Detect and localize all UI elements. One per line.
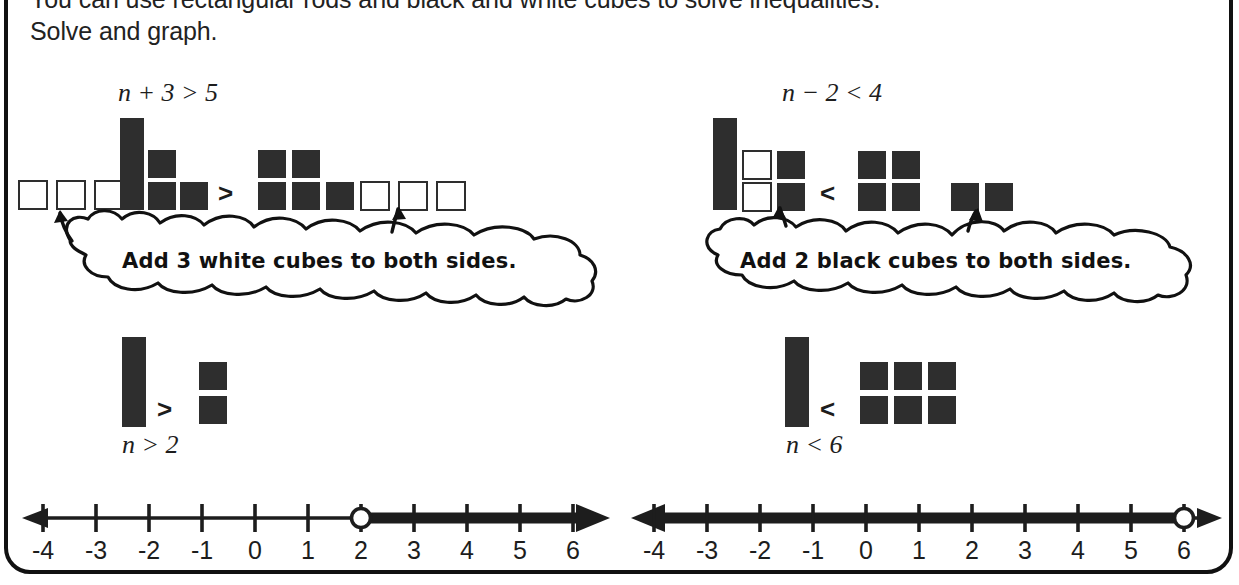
black-cube bbox=[858, 151, 886, 179]
tick-label: -1 bbox=[793, 536, 833, 565]
intro-line-2: Solve and graph. bbox=[30, 16, 217, 46]
right-equation: n − 2 < 4 bbox=[782, 78, 882, 108]
tick-label: 0 bbox=[235, 536, 275, 565]
black-cube bbox=[892, 151, 920, 179]
left-solution: n > 2 bbox=[122, 430, 179, 460]
black-cube bbox=[199, 396, 227, 424]
right-solution-text: n < 6 bbox=[786, 430, 843, 459]
tick-label: 6 bbox=[553, 536, 593, 565]
right-equation-text: n − 2 < 4 bbox=[782, 78, 882, 107]
black-cube bbox=[894, 396, 922, 424]
left-equation-text: n + 3 > 5 bbox=[118, 78, 218, 107]
tick-label: -2 bbox=[740, 536, 780, 565]
rod bbox=[120, 118, 144, 210]
right-callout: Add 2 black cubes to both sides. bbox=[690, 205, 1210, 314]
tick-label: -1 bbox=[182, 536, 222, 565]
tick-label: 0 bbox=[846, 536, 886, 565]
black-cube bbox=[894, 362, 922, 390]
tick-label: -4 bbox=[23, 536, 63, 565]
right-solution: n < 6 bbox=[786, 430, 843, 460]
tick-label: -4 bbox=[634, 536, 674, 565]
black-cube bbox=[860, 396, 888, 424]
tick-label: 2 bbox=[341, 536, 381, 565]
black-cube bbox=[258, 150, 286, 178]
tick-label: 5 bbox=[500, 536, 540, 565]
tick-label: 2 bbox=[952, 536, 992, 565]
black-cube bbox=[928, 396, 956, 424]
left-solution-text: n > 2 bbox=[122, 430, 179, 459]
tick-label: 1 bbox=[899, 536, 939, 565]
left-step2-relation: > bbox=[157, 394, 172, 425]
left-number-line: -4 -3 -2 -1 0 1 2 3 4 5 6 bbox=[14, 488, 614, 582]
black-cube bbox=[777, 151, 805, 179]
black-cube bbox=[292, 150, 320, 178]
left-equation: n + 3 > 5 bbox=[118, 78, 218, 108]
worksheet-page: You can use rectangular rods and black a… bbox=[0, 0, 1239, 585]
rod bbox=[785, 337, 809, 427]
tick-label: 4 bbox=[1058, 536, 1098, 565]
left-callout: Add 3 white cubes to both sides. bbox=[40, 205, 650, 314]
tick-label: 4 bbox=[447, 536, 487, 565]
tick-label: -3 bbox=[687, 536, 727, 565]
tick-label: 1 bbox=[288, 536, 328, 565]
right-number-line: -4 -3 -2 -1 0 1 2 3 4 5 6 bbox=[625, 488, 1230, 582]
black-cube bbox=[148, 150, 176, 178]
rod bbox=[122, 337, 146, 427]
black-cube bbox=[199, 362, 227, 390]
right-callout-text: Add 2 black cubes to both sides. bbox=[740, 249, 1132, 273]
tick-label: 5 bbox=[1111, 536, 1151, 565]
rod bbox=[713, 118, 737, 210]
intro-line-1: You can use rectangular rods and black a… bbox=[30, 0, 880, 14]
tick-label: 6 bbox=[1164, 536, 1204, 565]
white-cube bbox=[742, 150, 772, 180]
right-step2-relation: < bbox=[820, 394, 835, 425]
tick-label: 3 bbox=[1005, 536, 1045, 565]
black-cube bbox=[928, 362, 956, 390]
left-callout-text: Add 3 white cubes to both sides. bbox=[122, 249, 517, 273]
tick-label: -2 bbox=[129, 536, 169, 565]
tick-label: 3 bbox=[394, 536, 434, 565]
tick-label: -3 bbox=[76, 536, 116, 565]
black-cube bbox=[860, 362, 888, 390]
